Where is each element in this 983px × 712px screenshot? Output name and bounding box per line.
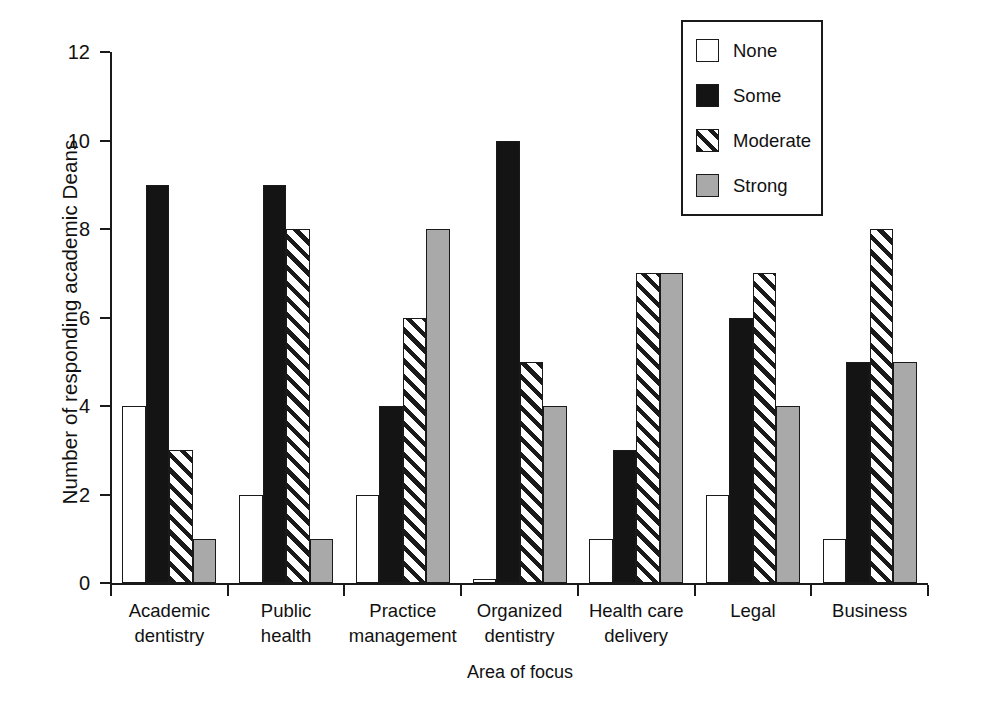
bar-moderate [870, 229, 894, 583]
bar-some [729, 318, 753, 584]
bar-some [263, 185, 287, 583]
bar-group [239, 52, 333, 583]
y-axis-tick [100, 51, 110, 53]
y-axis-tick-label: 8 [44, 218, 90, 241]
y-axis-tick-label: 0 [44, 572, 90, 595]
bar-none [823, 539, 847, 583]
legend-item-label: Moderate [733, 130, 811, 152]
bar-some [846, 362, 870, 583]
bar-moderate [636, 273, 660, 583]
y-axis-tick-label: 4 [44, 395, 90, 418]
x-axis-tick [460, 585, 462, 596]
x-axis-tick [577, 585, 579, 596]
bar-some [146, 185, 170, 583]
bar-none [706, 495, 730, 584]
bar-group [122, 52, 216, 583]
y-axis-tick-label: 2 [44, 483, 90, 506]
x-axis-tick [227, 585, 229, 596]
bar-some [613, 450, 637, 583]
legend-item-moderate[interactable]: Moderate [696, 129, 811, 152]
bar-none [122, 406, 146, 583]
x-axis-title: Area of focus [110, 662, 930, 683]
swatch-strong-icon [696, 174, 719, 197]
x-axis-tick [927, 585, 929, 596]
legend-item-label: Strong [733, 175, 788, 197]
swatch-moderate-icon [696, 129, 719, 152]
y-axis-tick-label: 10 [44, 129, 90, 152]
y-axis-tick-label: 12 [44, 41, 90, 64]
bar-strong [193, 539, 217, 583]
bar-strong [310, 539, 334, 583]
legend-item-some[interactable]: Some [696, 84, 781, 107]
y-axis-tick [100, 140, 110, 142]
bar-moderate [169, 450, 193, 583]
x-axis-tick [810, 585, 812, 596]
bar-group [589, 52, 683, 583]
bar-strong [660, 273, 684, 583]
bar-moderate [403, 318, 427, 584]
bar-group [356, 52, 450, 583]
swatch-none-icon [696, 39, 719, 62]
bar-strong [893, 362, 917, 583]
y-axis-tick [100, 317, 110, 319]
bar-none [239, 495, 263, 584]
x-axis-label-line: delivery [556, 623, 716, 648]
x-axis-label-line: Business [790, 598, 950, 623]
bar-none [356, 495, 380, 584]
x-axis-tick [110, 585, 112, 596]
legend-item-label: Some [733, 85, 781, 107]
x-axis-label: Business [790, 598, 950, 623]
bar-strong [543, 406, 567, 583]
bar-some [379, 406, 403, 583]
legend-item-none[interactable]: None [696, 39, 777, 62]
legend-item-label: None [733, 40, 777, 62]
y-axis-tick [100, 228, 110, 230]
y-axis-tick-label: 6 [44, 306, 90, 329]
y-axis-tick [100, 405, 110, 407]
x-axis-tick [343, 585, 345, 596]
swatch-some-icon [696, 84, 719, 107]
bar-moderate [520, 362, 544, 583]
bar-group [823, 52, 917, 583]
bar-moderate [286, 229, 310, 583]
bar-group [473, 52, 567, 583]
legend: NoneSomeModerateStrong [681, 20, 823, 216]
bar-moderate [753, 273, 777, 583]
legend-item-strong[interactable]: Strong [696, 174, 788, 197]
bar-none [589, 539, 613, 583]
y-axis-tick [100, 494, 110, 496]
bar-strong [776, 406, 800, 583]
x-axis-tick [694, 585, 696, 596]
x-axis-line [110, 583, 928, 585]
bar-chart: Number of responding academic Deans 0246… [0, 0, 983, 712]
y-axis-tick [100, 582, 110, 584]
bar-strong [426, 229, 450, 583]
bar-none [473, 579, 497, 583]
bar-some [496, 141, 520, 584]
